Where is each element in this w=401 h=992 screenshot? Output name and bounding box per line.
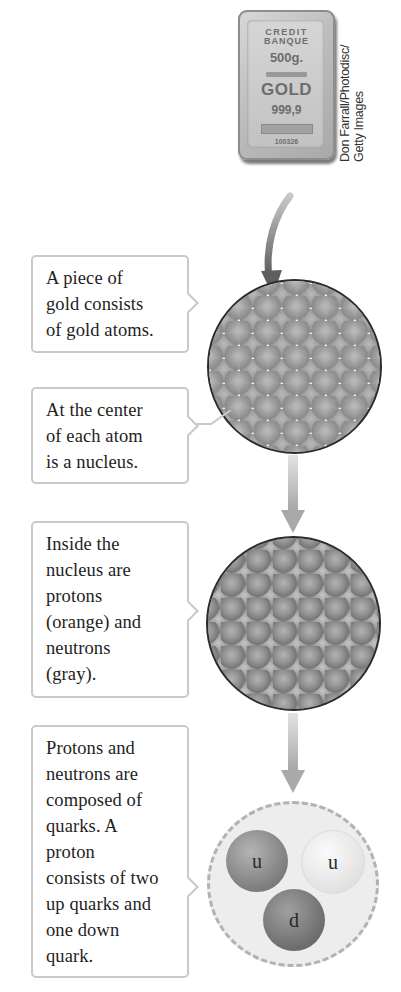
callout-line: gold consists bbox=[46, 291, 179, 317]
up-quark: u bbox=[226, 830, 288, 892]
callout-line: Protons and bbox=[46, 735, 179, 761]
callout-line: one down bbox=[46, 917, 179, 943]
callout-line: (orange) and bbox=[46, 609, 179, 635]
down-quark: d bbox=[263, 889, 325, 951]
callout-gold-atoms: A piece of gold consists of gold atoms. bbox=[31, 255, 189, 353]
quark-label: u bbox=[328, 851, 338, 874]
callout-line: quark. bbox=[46, 943, 179, 969]
callout-line: up quarks and bbox=[46, 891, 179, 917]
callout-line: A piece of bbox=[46, 265, 179, 291]
callout-line: quarks. A bbox=[46, 813, 179, 839]
callout-line: Inside the bbox=[46, 531, 179, 557]
callout-quarks: Protons and neutrons are composed of qua… bbox=[31, 725, 189, 978]
nucleus-circle bbox=[206, 536, 381, 711]
callout-line: neutrons bbox=[46, 635, 179, 661]
callout-line: protons bbox=[46, 583, 179, 609]
callout-line: proton bbox=[46, 839, 179, 865]
callout-line: nucleus are bbox=[46, 557, 179, 583]
quark-label: d bbox=[289, 909, 299, 932]
callout-protons-neutrons: Inside the nucleus are protons (orange) … bbox=[31, 521, 189, 698]
callout-line: consists of two bbox=[46, 865, 179, 891]
callout-line: of each atom bbox=[46, 423, 179, 449]
callout-line: At the center bbox=[46, 397, 179, 423]
callout-line: is a nucleus. bbox=[46, 449, 179, 475]
callout-line: (gray). bbox=[46, 661, 179, 687]
up-quark: u bbox=[301, 830, 365, 894]
quark-label: u bbox=[252, 850, 262, 873]
callout-nucleus: At the center of each atom is a nucleus. bbox=[31, 387, 189, 484]
proton-circle: u u d bbox=[207, 801, 379, 967]
callout-line: composed of bbox=[46, 787, 179, 813]
down-arrow-icon bbox=[281, 455, 305, 535]
callout-line: neutrons are bbox=[46, 761, 179, 787]
callout-line: of gold atoms. bbox=[46, 317, 179, 343]
down-arrow-icon bbox=[281, 713, 305, 795]
